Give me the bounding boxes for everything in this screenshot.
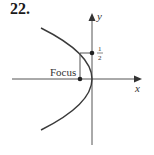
parabola-diagram: Focus y x 1 2 [0,0,154,155]
y-axis-arrow-icon [89,13,96,21]
fraction-denominator: 2 [98,54,102,62]
y-intercept-point [90,51,95,56]
focus-label: Focus [50,66,76,78]
y-axis-label: y [96,10,102,22]
fraction-numerator: 1 [98,45,102,53]
focus-point [78,77,83,82]
x-axis-label: x [134,82,140,94]
